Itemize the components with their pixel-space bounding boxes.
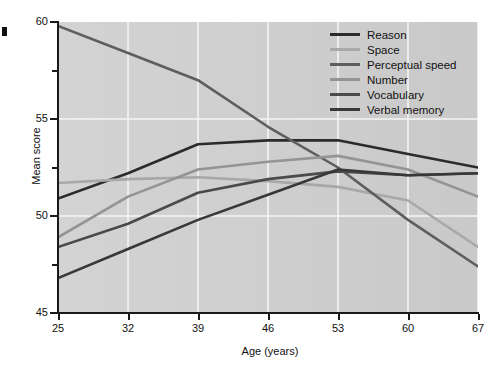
y-tick-label: 50 (22, 210, 48, 221)
legend-label: Vocabulary (367, 89, 424, 101)
x-tick-label: 67 (458, 322, 498, 334)
legend-item-space[interactable]: Space (330, 42, 457, 57)
x-tick-label: 32 (108, 322, 148, 334)
chart-legend: ReasonSpacePerceptual speedNumberVocabul… (330, 27, 457, 117)
y-tick-label: 45 (22, 307, 48, 318)
x-tick (478, 314, 480, 320)
x-tick-label: 46 (248, 322, 288, 334)
y-axis-line (57, 21, 59, 314)
y-tick-minor (52, 264, 57, 266)
x-tick (338, 314, 340, 320)
y-tick-major (50, 118, 57, 120)
legend-swatch-icon (330, 108, 360, 111)
x-axis-title: Age (years) (180, 345, 360, 357)
legend-item-perceptual-speed[interactable]: Perceptual speed (330, 57, 457, 72)
x-tick (408, 314, 410, 320)
x-tick-label: 39 (178, 322, 218, 334)
y-tick-major (50, 21, 57, 23)
x-tick-label: 25 (38, 322, 78, 334)
x-tick (128, 314, 130, 320)
legend-label: Space (367, 44, 400, 56)
legend-swatch-icon (330, 48, 360, 51)
x-tick-label: 53 (318, 322, 358, 334)
legend-swatch-icon (330, 63, 360, 66)
x-tick-label: 60 (388, 322, 428, 334)
legend-label: Reason (367, 29, 407, 41)
legend-item-vocabulary[interactable]: Vocabulary (330, 87, 457, 102)
legend-swatch-icon (330, 78, 360, 81)
series-line-reason (58, 140, 478, 198)
legend-item-number[interactable]: Number (330, 72, 457, 87)
y-tick-label: 60 (22, 16, 48, 27)
legend-swatch-icon (330, 93, 360, 96)
x-tick (58, 314, 60, 320)
y-tick-major (50, 312, 57, 314)
series-line-space (58, 177, 478, 247)
legend-label: Perceptual speed (367, 59, 457, 71)
legend-item-verbal-memory[interactable]: Verbal memory (330, 102, 457, 117)
series-line-vocabulary (58, 171, 478, 247)
x-tick (268, 314, 270, 320)
chart-figure: 45505560 25323946536067 Mean score Age (… (0, 0, 501, 372)
y-tick-minor (52, 167, 57, 169)
corner-mark (2, 27, 7, 36)
y-tick-major (50, 215, 57, 217)
y-tick-minor (52, 70, 57, 72)
x-tick (198, 314, 200, 320)
legend-swatch-icon (330, 33, 360, 36)
legend-label: Verbal memory (367, 104, 444, 116)
legend-item-reason[interactable]: Reason (330, 27, 457, 42)
y-axis-title: Mean score (30, 111, 42, 201)
legend-label: Number (367, 74, 408, 86)
